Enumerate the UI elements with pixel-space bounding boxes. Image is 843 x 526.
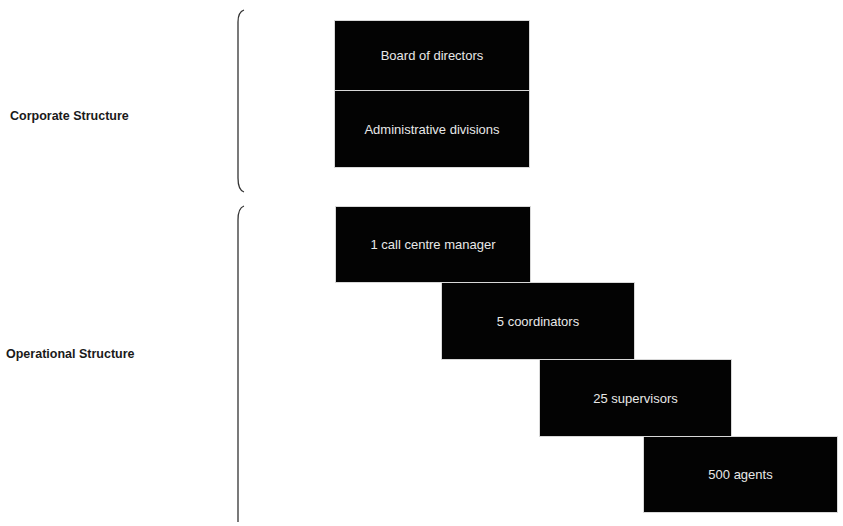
group-label-operational: Operational Structure — [6, 347, 135, 361]
box-board-of-directors: Board of directors — [334, 20, 530, 91]
box-label: 25 supervisors — [593, 391, 678, 406]
box-label: 500 agents — [708, 467, 772, 482]
group-label-corporate: Corporate Structure — [10, 109, 129, 123]
box-label: Board of directors — [381, 48, 484, 63]
brace-operational-icon — [232, 204, 252, 524]
box-label: 1 call centre manager — [370, 237, 495, 252]
box-administrative-divisions: Administrative divisions — [334, 90, 530, 168]
brace-corporate-icon — [232, 8, 252, 194]
box-supervisors: 25 supervisors — [539, 359, 732, 437]
box-coordinators: 5 coordinators — [441, 282, 635, 360]
box-label: Administrative divisions — [364, 122, 499, 137]
box-agents: 500 agents — [643, 436, 838, 513]
box-call-centre-manager: 1 call centre manager — [335, 206, 531, 283]
box-label: 5 coordinators — [497, 314, 579, 329]
